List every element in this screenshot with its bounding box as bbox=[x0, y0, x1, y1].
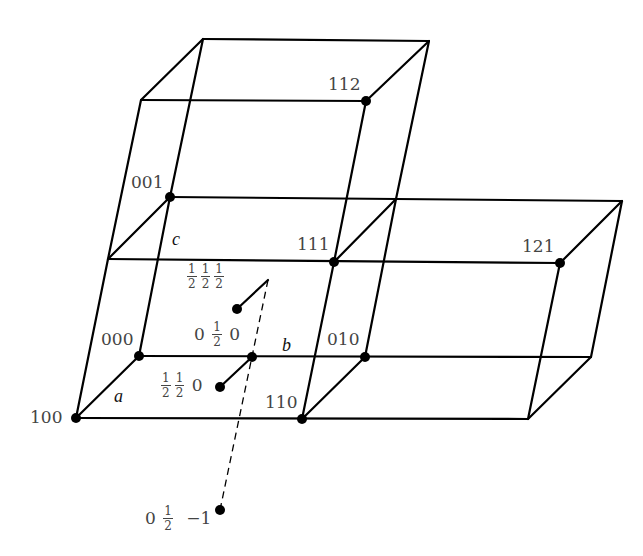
point-111 bbox=[329, 257, 339, 267]
label-half-half-half: 121212 bbox=[185, 263, 226, 290]
fraction: 12 bbox=[163, 505, 173, 532]
label-000: 000 bbox=[101, 331, 133, 348]
fraction: 12 bbox=[214, 263, 224, 290]
fractional-connectors bbox=[220, 280, 268, 510]
point-121 bbox=[555, 258, 565, 268]
point-112 bbox=[361, 96, 371, 106]
point-zero-half-minus-one bbox=[215, 505, 225, 515]
point-110 bbox=[297, 414, 307, 424]
label-110: 110 bbox=[265, 394, 297, 411]
fraction: 12 bbox=[187, 263, 197, 290]
label-001: 001 bbox=[131, 174, 163, 191]
axis-label-a: a bbox=[114, 387, 123, 405]
fraction: 12 bbox=[175, 372, 185, 399]
label-112: 112 bbox=[328, 76, 360, 93]
label-010: 010 bbox=[327, 331, 359, 348]
point-half-half-half bbox=[232, 304, 242, 314]
lattice-diagram bbox=[0, 0, 643, 556]
lattice-dots bbox=[71, 96, 565, 515]
fraction: 12 bbox=[201, 263, 211, 290]
fraction: 12 bbox=[212, 321, 222, 348]
label-100: 100 bbox=[30, 409, 62, 426]
label-zero-half-minus-one: 0 12 −1 bbox=[145, 505, 211, 532]
point-000 bbox=[134, 351, 144, 361]
label-half-half-zero: 1212 0 bbox=[159, 372, 203, 399]
point-100 bbox=[71, 413, 81, 423]
axis-label-c: c bbox=[172, 230, 180, 248]
point-zero-half-zero bbox=[247, 352, 257, 362]
axis-label-b: b bbox=[282, 336, 291, 354]
label-zero-half-zero: 0 12 0 bbox=[194, 321, 240, 348]
point-010 bbox=[360, 352, 370, 362]
label-111: 111 bbox=[297, 236, 329, 253]
upper-cell bbox=[108, 39, 429, 262]
point-half-half-zero bbox=[215, 382, 225, 392]
lower-cells bbox=[76, 197, 622, 419]
point-001 bbox=[165, 192, 175, 202]
label-121: 121 bbox=[522, 238, 554, 255]
fraction: 12 bbox=[161, 372, 171, 399]
